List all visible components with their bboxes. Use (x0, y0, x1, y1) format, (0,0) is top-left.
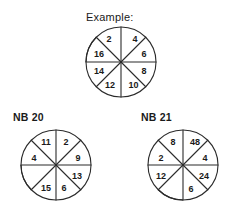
wheel-graphic (86, 27, 156, 97)
example-wheel: 4 6 8 10 12 14 16 2 (85, 25, 157, 99)
sector-value-left-lower[interactable]: 12 (156, 171, 166, 181)
sector-value-right-lower: 8 (141, 66, 146, 76)
problem-label-nb20: NB 20 (13, 112, 44, 123)
sector-value-left-upper[interactable]: 2 (158, 153, 163, 163)
sector-value-left-upper: 16 (94, 49, 104, 59)
nb21-wheel-svg[interactable]: 48 4 24 6 12 2 8 (147, 128, 219, 202)
sector-value-top-left[interactable]: 8 (170, 137, 175, 147)
wheel-graphic (21, 130, 91, 200)
sector-value-bottom-left[interactable]: 15 (41, 183, 51, 193)
sector-value-top-right[interactable]: 48 (190, 137, 200, 147)
sector-value-right-lower[interactable]: 24 (199, 171, 209, 181)
number-wheel-worksheet: Example: 4 6 8 10 12 14 16 2 NB 20 (0, 0, 233, 216)
sector-value-right-lower[interactable]: 13 (72, 171, 82, 181)
example-wheel-svg: 4 6 8 10 12 14 16 2 (85, 25, 157, 99)
sector-value-left-lower: 14 (94, 66, 104, 76)
sector-value-bottom-right[interactable]: 6 (188, 184, 193, 194)
sector-value-bottom-right[interactable]: 6 (61, 183, 66, 193)
sector-value-top-left: 2 (106, 34, 111, 44)
sector-value-right-upper: 6 (141, 49, 146, 59)
example-label: Example: (86, 12, 133, 23)
problem-label-nb21: NB 21 (141, 112, 172, 123)
sector-value-top-right: 4 (132, 34, 137, 44)
nb20-wheel[interactable]: 2 9 13 6 15 4 11 (20, 128, 92, 202)
sector-value-bottom-right: 10 (128, 80, 138, 90)
wheel-graphic (148, 130, 218, 200)
nb21-wheel[interactable]: 48 4 24 6 12 2 8 (147, 128, 219, 202)
sector-value-bottom-left: 12 (105, 80, 115, 90)
sector-value-left-upper[interactable]: 4 (31, 153, 36, 163)
nb20-wheel-svg[interactable]: 2 9 13 6 15 4 11 (20, 128, 92, 202)
sector-value-top-left[interactable]: 11 (41, 137, 51, 147)
sector-value-top-right[interactable]: 2 (63, 137, 68, 147)
sector-value-right-upper[interactable]: 4 (202, 153, 207, 163)
sector-value-right-upper[interactable]: 9 (75, 153, 80, 163)
